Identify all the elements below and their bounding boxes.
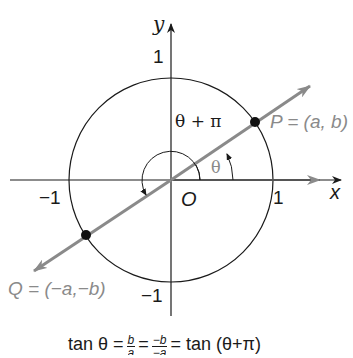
formula-eq3: = xyxy=(170,334,181,355)
y-tick-one: 1 xyxy=(153,47,164,66)
theta-arc-outer xyxy=(227,154,233,180)
fraction-b-over-a: b a xyxy=(127,334,136,355)
unit-circle-diagram xyxy=(0,0,353,358)
x-tick-one: 1 xyxy=(273,188,284,207)
formula-lhs: tan θ xyxy=(68,334,108,355)
formula-eq2: = xyxy=(138,334,149,355)
fraction-negb-over-nega: −b −a xyxy=(152,334,168,355)
tangent-identity-formula: tan θ = b a = −b −a = tan (θ+π) xyxy=(68,334,261,355)
fraction-denominator: −a xyxy=(153,347,167,355)
theta-label: θ xyxy=(211,160,221,176)
x-axis-label: x xyxy=(330,182,340,202)
y-axis-label: y xyxy=(153,14,164,34)
theta-plus-pi-label: θ + π xyxy=(175,113,221,130)
formula-eq1: = xyxy=(113,334,124,355)
formula-rhs: tan (θ+π) xyxy=(186,334,261,355)
point-p-label: P = (a, b) xyxy=(270,112,348,131)
point-q-label: Q = (−a,−b) xyxy=(8,279,106,298)
x-tick-neg-one: −1 xyxy=(39,188,61,207)
line-through-origin xyxy=(171,86,310,180)
fraction-denominator: a xyxy=(128,347,135,355)
fraction-numerator: −b xyxy=(152,334,168,347)
point-p xyxy=(250,117,260,127)
y-tick-neg-one: −1 xyxy=(141,286,163,305)
point-q xyxy=(81,230,91,240)
origin-label: O xyxy=(181,189,197,209)
fraction-numerator: b xyxy=(127,334,136,347)
